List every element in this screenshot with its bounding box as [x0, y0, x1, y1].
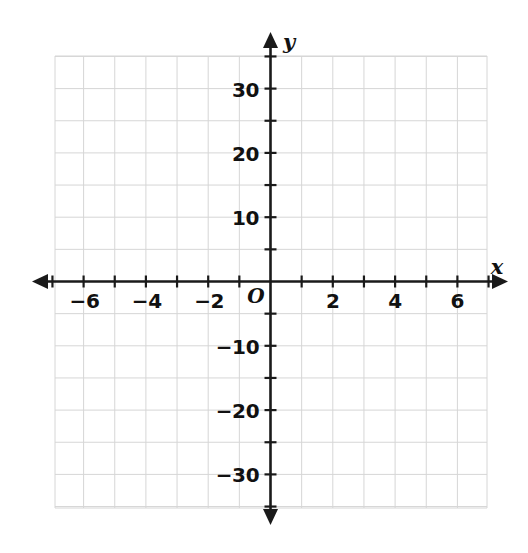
y-tick-label: 20 — [232, 142, 259, 166]
coordinate-plane-svg — [0, 0, 528, 553]
x-axis-left-arrow — [32, 274, 48, 289]
x-tick-label: 4 — [388, 289, 402, 313]
axis-lines — [32, 32, 508, 525]
y-axis-up-arrow — [263, 32, 278, 48]
x-tick-label: 6 — [451, 289, 465, 313]
origin-label: O — [247, 284, 264, 308]
y-tick-label: 30 — [232, 78, 259, 102]
x-axis-label: x — [491, 254, 504, 279]
y-tick-label: −20 — [216, 399, 260, 423]
x-tick-label: −4 — [132, 289, 162, 313]
y-axis-down-arrow — [263, 509, 278, 525]
y-tick-label: −30 — [216, 463, 260, 487]
x-tick-label: −2 — [194, 289, 224, 313]
x-tick-label: 2 — [326, 289, 340, 313]
y-axis-label: y — [283, 29, 295, 54]
y-tick-label: 10 — [232, 206, 259, 230]
y-tick-label: −10 — [216, 335, 260, 359]
x-tick-label: −6 — [70, 289, 100, 313]
coordinate-plane-figure: −6−4−2246302010−10−20−30 x y O — [0, 0, 528, 553]
